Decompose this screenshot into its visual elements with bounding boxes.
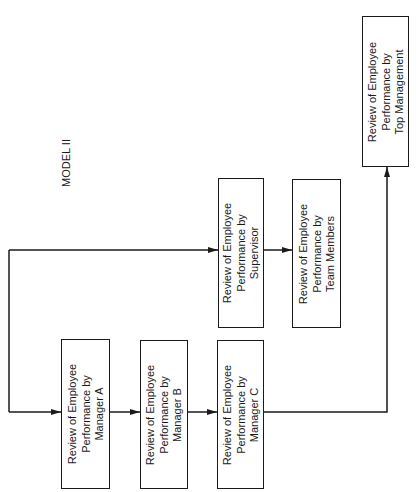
node-top-management: Review of Employee Performance by Top Ma…: [362, 16, 409, 167]
node-manager-c: Review of Employee Performance by Manage…: [217, 340, 264, 489]
node-supervisor: Review of Employee Performance by Superv…: [218, 178, 264, 328]
node-manager-a: Review of Employee Performance by Manage…: [61, 339, 110, 489]
node-label: Review of Employee Performance by Manage…: [144, 364, 185, 464]
node-team-members: Review of Employee Performance by Team M…: [292, 179, 341, 328]
diagram-canvas: MODEL II Review of Employee Performance …: [0, 0, 418, 492]
diagram-title: MODEL II: [60, 139, 72, 187]
node-label: Review of Employee Performance by Superv…: [221, 203, 262, 303]
node-label: Review of Employee Performance by Manage…: [220, 364, 261, 464]
node-manager-b: Review of Employee Performance by Manage…: [140, 340, 188, 489]
node-label: Review of Employee Performance by Manage…: [65, 364, 106, 464]
node-label: Review of Employee Performance by Top Ma…: [365, 41, 406, 141]
node-label: Review of Employee Performance by Team M…: [296, 203, 337, 303]
